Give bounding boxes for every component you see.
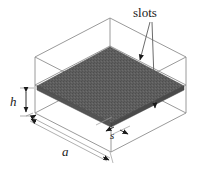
s-guide-lower <box>113 126 130 134</box>
dimension-label-h: h <box>10 95 17 108</box>
dimension-h <box>20 88 36 118</box>
slotted-plate <box>37 47 184 127</box>
h-corner-tick <box>31 115 36 118</box>
h-leader-to-corner <box>26 113 33 116</box>
s-arrow-right <box>120 130 128 134</box>
dimension-label-a: a <box>62 145 69 158</box>
plate-top-surface <box>37 47 184 123</box>
dimension-label-s: s <box>110 130 114 141</box>
dimension-a <box>30 118 113 163</box>
slots-leader-left <box>140 22 150 60</box>
slots-label: slots <box>133 6 157 19</box>
a-extension-right <box>110 152 113 163</box>
diagram-canvas <box>0 0 211 174</box>
slotted-cavity-figure: slots h a s <box>0 0 211 174</box>
